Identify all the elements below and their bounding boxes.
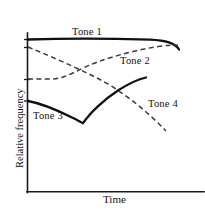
x-axis-title: Time: [103, 193, 126, 205]
curve-label-tone-3: Tone 3: [33, 110, 63, 121]
curve-tone-1: [28, 39, 179, 50]
curve-label-tone-4: Tone 4: [148, 98, 178, 109]
curve-label-tone-1: Tone 1: [72, 26, 102, 37]
y-axis-title: Relative frequency: [14, 88, 25, 168]
tone-contour-figure: Tone 1 Tone 2 Tone 3 Tone 4 Relative fre…: [0, 0, 205, 214]
curve-label-tone-2: Tone 2: [120, 55, 150, 66]
curve-tone-2: [28, 45, 178, 79]
